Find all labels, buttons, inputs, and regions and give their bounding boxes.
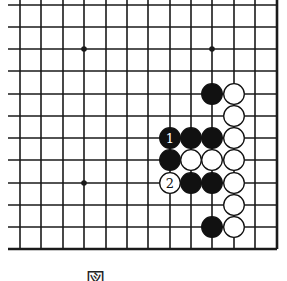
white-stone-disc (224, 106, 245, 127)
white-stone (224, 84, 245, 105)
black-stone-disc (202, 84, 223, 105)
white-stone: 2 (160, 173, 181, 194)
black-stone (202, 128, 223, 149)
black-stone: 1 (160, 128, 181, 149)
white-stone-disc (224, 150, 245, 171)
black-stone-disc (202, 173, 223, 194)
white-stone (224, 195, 245, 216)
white-stone (224, 128, 245, 149)
white-stone (181, 150, 202, 171)
white-stone-disc (202, 150, 223, 171)
white-stone (224, 173, 245, 194)
white-stone (224, 217, 245, 238)
white-stone-disc (224, 217, 245, 238)
black-stone (202, 173, 223, 194)
stones: 12 (160, 84, 245, 238)
white-stone (224, 106, 245, 127)
move-number-label: 1 (166, 131, 174, 146)
move-number-label: 2 (166, 176, 174, 191)
go-board-diagram: 12 (0, 0, 287, 281)
black-stone (181, 128, 202, 149)
black-stone-disc (202, 128, 223, 149)
black-stone-disc (181, 128, 202, 149)
star-point (81, 180, 87, 186)
white-stone (224, 150, 245, 171)
black-stone-disc (181, 173, 202, 194)
white-stone-disc (181, 150, 202, 171)
star-point (81, 46, 87, 52)
white-stone-disc (224, 173, 245, 194)
figure-caption: 図 (86, 270, 111, 281)
white-stone (202, 150, 223, 171)
black-stone (202, 217, 223, 238)
white-stone-disc (224, 128, 245, 149)
white-stone-disc (224, 195, 245, 216)
black-stone (202, 84, 223, 105)
black-stone-disc (202, 217, 223, 238)
white-stone-disc (224, 84, 245, 105)
black-stone (181, 173, 202, 194)
black-stone-disc (160, 150, 181, 171)
star-point (209, 46, 215, 52)
black-stone (160, 150, 181, 171)
